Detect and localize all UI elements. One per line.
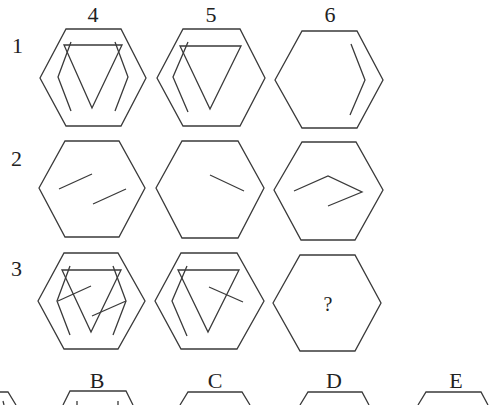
inverted-triangle bbox=[62, 270, 121, 332]
cell-r2-c6 bbox=[274, 142, 383, 240]
hexagon-outline-partial bbox=[300, 392, 369, 405]
descending-segment bbox=[210, 175, 244, 191]
inverted-triangle bbox=[178, 270, 239, 332]
left-bracket bbox=[58, 42, 71, 111]
cell-r2-c4 bbox=[39, 141, 145, 237]
descending-segment bbox=[209, 287, 243, 302]
hexagon-outline bbox=[275, 31, 383, 128]
hexagon-outline-partial bbox=[0, 392, 16, 405]
question-mark: ? bbox=[324, 293, 333, 315]
hexagon-outline bbox=[40, 29, 146, 126]
zigzag-polyline bbox=[294, 176, 362, 206]
column-label-4: 4 bbox=[88, 2, 99, 27]
inverted-triangle bbox=[180, 46, 241, 109]
option-e[interactable] bbox=[418, 392, 488, 405]
row-label-1: 1 bbox=[12, 33, 23, 58]
slash-segment bbox=[93, 189, 126, 204]
inverted-triangle bbox=[64, 45, 122, 108]
slash-segment bbox=[59, 174, 92, 189]
right-bracket bbox=[115, 42, 128, 111]
option-label-e: E bbox=[449, 368, 462, 393]
hexagon-outline bbox=[274, 142, 383, 240]
hexagon-outline-partial bbox=[418, 392, 488, 405]
hexagon-outline bbox=[156, 141, 264, 238]
cell-r3-c5 bbox=[155, 253, 264, 349]
hexagon-outline-partial bbox=[180, 392, 250, 405]
option-label-d: D bbox=[326, 368, 342, 393]
cell-r1-c6 bbox=[275, 31, 383, 128]
option-label-c: C bbox=[208, 368, 223, 393]
cell-r1-c4 bbox=[40, 29, 146, 126]
right-bracket bbox=[113, 266, 126, 335]
hexagon-outline bbox=[38, 253, 145, 349]
hexagon-outline bbox=[39, 141, 145, 237]
option-b[interactable] bbox=[63, 391, 133, 405]
left-bracket bbox=[172, 266, 187, 336]
cell-r2-c5 bbox=[156, 141, 264, 238]
column-label-6: 6 bbox=[325, 2, 336, 27]
row-label-3: 3 bbox=[11, 256, 22, 281]
hexagon-outline-partial bbox=[63, 391, 133, 405]
row-label-2: 2 bbox=[11, 146, 22, 171]
left-bracket bbox=[173, 42, 188, 112]
right-bracket bbox=[350, 44, 365, 115]
option-d[interactable] bbox=[300, 392, 369, 405]
puzzle-svg: 4 5 6 1 2 3 bbox=[0, 0, 497, 405]
cell-r3-c4 bbox=[38, 253, 145, 349]
slash-segment bbox=[58, 286, 91, 301]
option-c[interactable] bbox=[180, 392, 250, 405]
option-a-partial[interactable] bbox=[0, 392, 16, 405]
cell-r3-c6-missing: ? bbox=[273, 255, 381, 351]
option-label-b: B bbox=[90, 368, 105, 393]
column-label-5: 5 bbox=[206, 2, 217, 27]
puzzle-figure: 4 5 6 1 2 3 bbox=[0, 0, 497, 405]
cell-r1-c5 bbox=[157, 29, 265, 126]
bracket-stub bbox=[3, 401, 4, 405]
